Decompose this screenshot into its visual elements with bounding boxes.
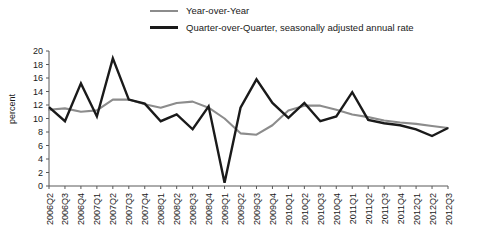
x-tick-label: 2006Q2 xyxy=(45,193,55,225)
y-tick-label: 20 xyxy=(33,46,43,56)
y-axis: 02468101214161820 xyxy=(33,46,49,191)
x-tick-label: 2011Q2 xyxy=(364,193,374,224)
y-tick-label: 16 xyxy=(33,73,43,83)
x-tick-label: 2011Q1 xyxy=(348,193,358,224)
y-tick-label: 12 xyxy=(33,100,43,110)
y-tick-label: 4 xyxy=(38,154,43,164)
x-tick-label: 2008Q1 xyxy=(156,193,166,225)
x-tick-label: 2007Q4 xyxy=(140,193,150,225)
y-tick-label: 14 xyxy=(33,87,43,97)
y-tick-label: 8 xyxy=(38,127,43,137)
x-tick-label: 2008Q4 xyxy=(204,193,214,225)
x-tick-label: 2012Q2 xyxy=(428,193,438,225)
x-tick-label: 2011Q3 xyxy=(380,193,390,224)
x-tick-label: 2007Q2 xyxy=(108,193,118,225)
x-tick-label: 2007Q3 xyxy=(124,193,134,225)
x-tick-label: 2010Q3 xyxy=(316,193,326,225)
x-tick-label: 2009Q1 xyxy=(220,193,230,225)
x-tick-label: 2007Q1 xyxy=(92,193,102,225)
x-tick-label: 2012Q3 xyxy=(444,193,454,225)
series-line-yoy xyxy=(49,100,448,135)
x-tick-label: 2008Q2 xyxy=(172,193,182,225)
x-tick-label: 2012Q1 xyxy=(412,193,422,225)
x-tick-label: 2009Q4 xyxy=(268,193,278,225)
x-tick-label: 2006Q4 xyxy=(76,193,86,225)
y-tick-label: 18 xyxy=(33,60,43,70)
x-axis: 2006Q22006Q32006Q42007Q12007Q22007Q32007… xyxy=(45,186,454,225)
x-tick-label: 2011Q4 xyxy=(396,193,406,224)
y-tick-label: 6 xyxy=(38,141,43,151)
y-tick-label: 10 xyxy=(33,114,43,124)
x-tick-label: 2008Q3 xyxy=(188,193,198,225)
x-tick-label: 2009Q3 xyxy=(252,193,262,225)
plot-area: 02468101214161820 2006Q22006Q32006Q42007… xyxy=(0,0,482,249)
y-tick-label: 0 xyxy=(38,181,43,191)
x-tick-label: 2009Q2 xyxy=(236,193,246,225)
y-tick-label: 2 xyxy=(38,168,43,178)
x-tick-label: 2010Q4 xyxy=(332,193,342,225)
x-tick-label: 2010Q2 xyxy=(300,193,310,225)
x-tick-label: 2010Q1 xyxy=(284,193,294,225)
chart-container: Year-over-Year Quarter-over-Quarter, sea… xyxy=(0,0,482,249)
x-tick-label: 2006Q3 xyxy=(60,193,70,225)
